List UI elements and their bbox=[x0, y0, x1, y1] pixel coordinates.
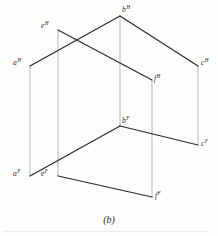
point-label-base: f bbox=[154, 74, 156, 83]
point-label-f-h: fH bbox=[154, 75, 161, 83]
point-label-superscript: H bbox=[157, 73, 161, 79]
edge-bh-ch bbox=[120, 16, 198, 66]
point-label-a-h: aH bbox=[13, 59, 21, 67]
point-label-superscript: H bbox=[17, 57, 21, 63]
point-label-b-h: bH bbox=[122, 6, 130, 14]
point-label-base: c bbox=[201, 139, 205, 148]
point-label-c-f: cF bbox=[201, 140, 208, 148]
point-label-superscript: F bbox=[45, 168, 48, 174]
paper-artifact bbox=[4, 231, 209, 232]
point-label-e-f: eF bbox=[41, 170, 48, 178]
point-label-superscript: F bbox=[158, 190, 161, 196]
point-label-base: c bbox=[201, 58, 205, 67]
point-label-c-h: cH bbox=[201, 59, 209, 67]
point-label-superscript: F bbox=[126, 115, 129, 121]
point-label-superscript: H bbox=[205, 57, 209, 63]
object-lines-group bbox=[30, 16, 198, 197]
point-label-base: e bbox=[41, 21, 45, 30]
point-label-f-f: fF bbox=[155, 192, 161, 200]
edge-eh-fh bbox=[58, 30, 152, 80]
point-label-a-f: aF bbox=[13, 170, 21, 178]
point-label-base: f bbox=[155, 191, 157, 200]
point-label-b-f: bF bbox=[122, 117, 130, 125]
point-label-superscript: F bbox=[205, 138, 208, 144]
figure-caption: (b) bbox=[0, 214, 218, 225]
edge-bf-cf bbox=[120, 126, 198, 145]
descriptive-geometry-figure: aHbHcHeHfHaFbFcFeFfF (b) bbox=[0, 0, 218, 236]
point-label-superscript: F bbox=[17, 168, 20, 174]
point-label-superscript: H bbox=[126, 4, 130, 10]
projector-lines-group bbox=[30, 16, 198, 197]
point-label-e-h: eH bbox=[41, 22, 49, 30]
edge-ef-ff bbox=[58, 176, 152, 197]
point-label-superscript: H bbox=[45, 20, 49, 26]
point-label-base: e bbox=[41, 169, 45, 178]
figure-drawing-canvas bbox=[0, 0, 218, 236]
